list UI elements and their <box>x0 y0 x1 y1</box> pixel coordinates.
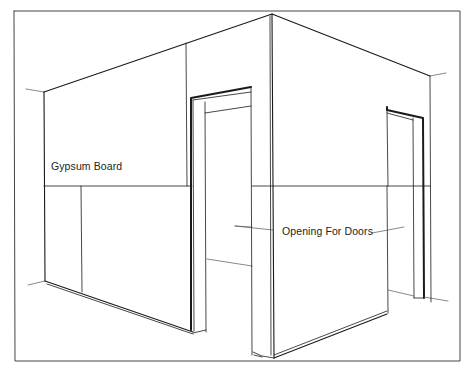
right-wall-end <box>387 186 388 313</box>
left-wall-base <box>45 281 193 332</box>
door-jamb-left-inner <box>205 102 206 332</box>
gypsum-board-label: Gypsum Board <box>51 160 122 172</box>
far-right-wall-edge <box>430 76 431 302</box>
door-opening-left-head <box>191 87 251 330</box>
door-jamb-right-inner <box>413 118 414 298</box>
left-wall-edge <box>44 92 45 281</box>
floor-line-left <box>28 281 45 285</box>
ceiling-line-far-right <box>430 73 446 76</box>
door-head-back <box>205 106 251 113</box>
floor-line-through-door <box>207 259 252 266</box>
floor-line-right <box>424 297 448 301</box>
opening-for-doors-label: Opening For Doors <box>282 225 373 237</box>
ceiling-line-far-left <box>26 89 44 92</box>
door-jamb-right-left <box>387 110 388 186</box>
leader-line-opening-right <box>372 227 404 233</box>
right-wall-base <box>274 314 387 358</box>
left-wall-base-edge <box>47 284 193 334</box>
door-jamb-left-bottom <box>193 330 206 333</box>
corner-edge-left-face <box>270 16 271 355</box>
right-wall-base-edge <box>274 311 387 355</box>
leader-line-opening-left <box>235 226 273 230</box>
corner-edge-inner <box>251 87 252 355</box>
room-diagram: Gypsum Board Opening For Doors <box>0 0 469 372</box>
board-seam-lower <box>81 186 82 292</box>
ceiling-edge-left <box>44 14 272 92</box>
room-drawing <box>0 0 469 372</box>
ceiling-edge-right <box>272 14 430 76</box>
door-opening-right-head <box>387 107 424 298</box>
door-jamb-left-face <box>193 100 194 331</box>
board-seam-upper <box>186 43 187 186</box>
floor-line-right-door <box>388 290 414 296</box>
